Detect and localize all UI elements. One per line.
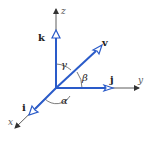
j-arrowhead-icon: [104, 85, 113, 91]
beta-label: β: [81, 72, 88, 83]
k-label: k: [38, 32, 46, 43]
gamma-label: γ: [61, 59, 67, 70]
x-axis-label: x: [8, 117, 13, 127]
y-axis-label: y: [137, 75, 144, 85]
unit-vector-j: [56, 85, 113, 91]
z-axis-label: z: [60, 6, 66, 16]
j-label: j: [109, 74, 114, 85]
k-arrowhead-icon: [52, 30, 60, 38]
alpha-label: α: [61, 95, 68, 106]
unit-vector-k: [52, 30, 60, 88]
unit-vector-i: [29, 88, 56, 115]
i-label: i: [22, 102, 26, 113]
direction-angles-diagram: z y x k j i v γ β α: [0, 0, 146, 142]
v-label: v: [101, 37, 109, 48]
